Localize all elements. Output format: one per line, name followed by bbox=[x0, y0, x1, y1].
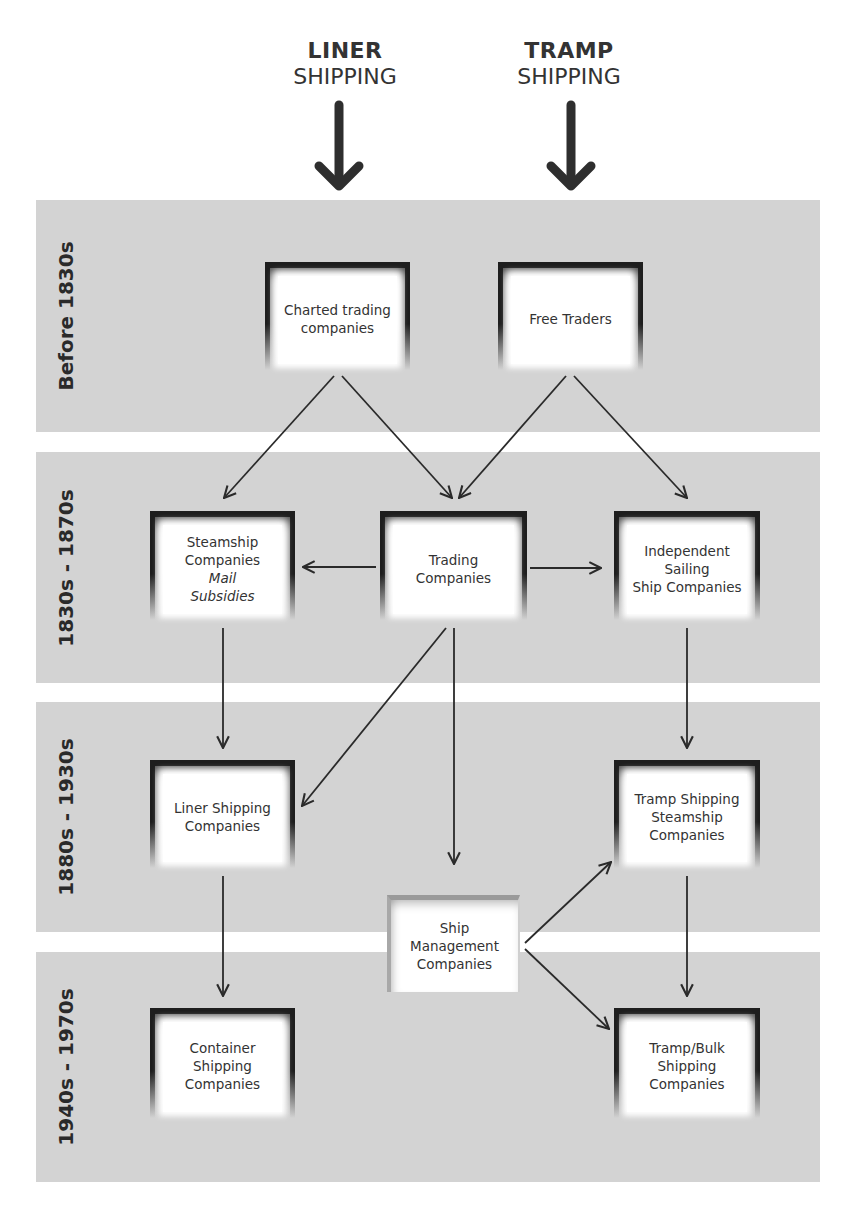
node-text: Management bbox=[410, 938, 499, 954]
node-text: Companies bbox=[649, 1076, 724, 1092]
band-label-1880s-1930s: 1880s - 1930s bbox=[54, 738, 78, 895]
header-tramp-shipping: TRAMP SHIPPING bbox=[489, 38, 649, 90]
node-container-shipping-companies: ContainerShippingCompanies bbox=[150, 1008, 295, 1118]
node-text: Companies bbox=[417, 956, 492, 972]
node-text: Shipping bbox=[658, 1058, 717, 1074]
band-label-1940s-1970s: 1940s - 1970s bbox=[54, 988, 78, 1145]
band-before-1830s: Before 1830s bbox=[36, 200, 820, 432]
node-note: Subsidies bbox=[185, 587, 260, 605]
node-text: Trading bbox=[429, 552, 479, 568]
node-text: Companies bbox=[185, 818, 260, 834]
node-text: Tramp Shipping bbox=[635, 791, 740, 807]
big-down-arrow-icon bbox=[319, 105, 359, 186]
node-text: Ship Companies bbox=[632, 579, 741, 595]
header-liner-light: SHIPPING bbox=[265, 64, 425, 90]
node-tramp-bulk-shipping-companies: Tramp/BulkShippingCompanies bbox=[614, 1008, 760, 1118]
band-label-1830s-1870s: 1830s - 1870s bbox=[54, 489, 78, 646]
node-text: Liner Shipping bbox=[174, 800, 271, 816]
band-label-before-1830s: Before 1830s bbox=[54, 241, 78, 390]
node-independent-sailing-ship-companies: IndependentSailingShip Companies bbox=[614, 511, 760, 620]
node-charted-trading-companies: Charted tradingcompanies bbox=[265, 262, 410, 370]
node-text: Free Traders bbox=[529, 311, 611, 327]
node-tramp-shipping-steamship-companies: Tramp ShippingSteamshipCompanies bbox=[614, 760, 760, 868]
node-ship-management-companies: ShipManagementCompanies bbox=[387, 895, 520, 992]
node-steamship-companies: SteamshipCompanies MailSubsidies bbox=[150, 511, 295, 620]
header-tramp-bold: TRAMP bbox=[489, 38, 649, 64]
node-note: Mail bbox=[185, 569, 260, 587]
node-text: Container bbox=[190, 1040, 256, 1056]
node-text: Tramp/Bulk bbox=[649, 1040, 725, 1056]
node-free-traders: Free Traders bbox=[498, 262, 643, 370]
header-liner-shipping: LINER SHIPPING bbox=[265, 38, 425, 90]
header-tramp-light: SHIPPING bbox=[489, 64, 649, 90]
node-text: Independent bbox=[644, 543, 730, 559]
node-text: Ship bbox=[440, 920, 469, 936]
node-text: Steamship bbox=[187, 534, 259, 550]
node-liner-shipping-companies: Liner ShippingCompanies bbox=[150, 760, 295, 868]
node-trading-companies: TradingCompanies bbox=[380, 511, 527, 620]
node-text: Companies bbox=[649, 827, 724, 843]
header-liner-bold: LINER bbox=[265, 38, 425, 64]
node-text: companies bbox=[301, 320, 374, 336]
node-text: Charted trading bbox=[284, 302, 391, 318]
node-text: Sailing bbox=[664, 561, 709, 577]
node-text: Companies bbox=[185, 1076, 260, 1092]
node-text: Companies bbox=[416, 570, 491, 586]
node-text: Shipping bbox=[193, 1058, 252, 1074]
big-down-arrow-icon bbox=[551, 105, 591, 186]
node-text: Companies bbox=[185, 552, 260, 568]
node-text: Steamship bbox=[651, 809, 723, 825]
